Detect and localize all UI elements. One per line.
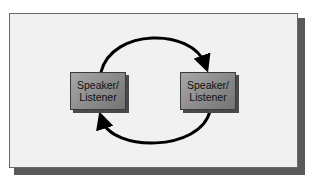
node-label-line1: Speaker/ xyxy=(77,79,119,91)
speaker-listener-node-left: Speaker/ Listener xyxy=(70,72,126,110)
cycle-arrows xyxy=(0,0,315,182)
node-label-line2: Listener xyxy=(189,91,226,103)
arrow-bottom xyxy=(102,111,210,143)
speaker-listener-node-right: Speaker/ Listener xyxy=(180,72,236,110)
node-label-line1: Speaker/ xyxy=(187,79,229,91)
node-label-line2: Listener xyxy=(79,91,116,103)
arrow-top xyxy=(101,38,205,72)
